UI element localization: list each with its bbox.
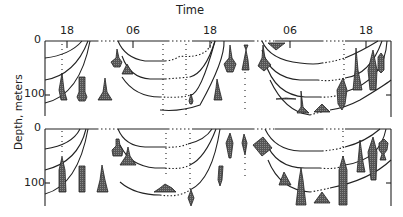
kite-profiles <box>59 43 388 206</box>
diagram-canvas <box>0 0 403 217</box>
